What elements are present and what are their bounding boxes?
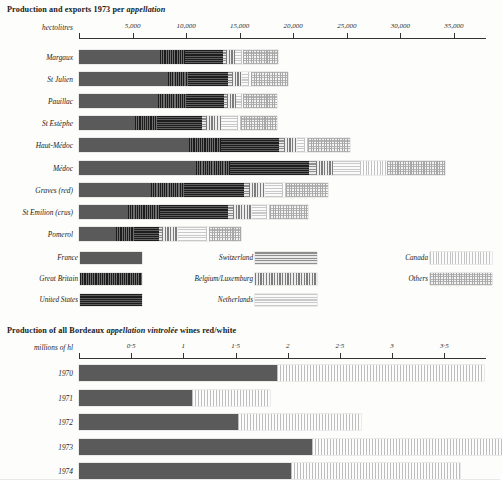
bar-segment-others [243,94,277,108]
legend-label: Others [0,275,434,283]
bar-segment-great-britain [160,50,185,64]
bar-segment-belgium-luxemburg [162,227,178,241]
legend-label: Canada [0,254,434,262]
bar-segment-france [79,50,160,64]
top-chart-bar [79,94,277,108]
bar-segment-great-britain [196,161,230,175]
bar-segment-great-britain [135,116,157,130]
top-chart-row-label: St Julien [0,75,79,84]
bar-segment-united-states [221,138,279,152]
bar-segment-netherlands [265,183,282,197]
bar-segment-france [79,72,168,86]
bar-segment-belgium-luxemburg [226,50,236,64]
bottom-chart-bar [79,365,484,381]
legend: FranceGreat BritainUnited StatesSwitzerl… [0,250,500,312]
top-chart-row-label: Pomerol [0,230,79,239]
bar-segment-white [238,414,361,430]
bottom-chart-row-label: 1973 [0,443,79,452]
legend-swatch-canada [430,252,492,264]
bar-segment-others [308,138,350,152]
bar-segment-belgium-luxemburg [206,116,221,130]
bar-segment-red [79,414,238,430]
bottom-chart-row-label: 1970 [0,369,79,378]
bar-segment-others [270,205,307,219]
bar-segment-netherlands [297,138,304,152]
bar-segment-belgium-luxemburg [227,94,237,108]
bar-segment-netherlands [333,161,360,175]
bar-segment-belgium-luxemburg [284,138,297,152]
bar-segment-white [192,390,270,406]
top-chart-row-label: St Emilion (crus) [0,208,79,217]
top-chart-row-label: Graves (red) [0,186,79,195]
bar-segment-red [79,390,192,406]
bottom-chart-row-label: 1971 [0,394,79,403]
bar-segment-netherlands [178,227,206,241]
bar-segment-united-states [230,161,309,175]
bar-segment-united-states [134,227,160,241]
bar-segment-red [79,439,312,455]
bar-segment-france [79,116,135,130]
bar-segment-others [286,183,328,197]
bar-segment-france [79,138,189,152]
bar-segment-belgium-luxemburg [233,205,252,219]
bar-segment-white [312,439,502,455]
bottom-chart-bar [79,390,270,406]
bottom-chart-plot: 19701971197219731974 [0,320,500,480]
bar-segment-france [79,183,151,197]
top-chart-bar [79,50,278,64]
bar-segment-others [243,50,278,64]
bar-segment-united-states [160,205,227,219]
top-chart-row-label: St Estèphe [0,119,79,128]
bar-segment-belgium-luxemburg [249,183,265,197]
top-chart-row-label: Médoc [0,164,79,173]
bar-segment-united-states [184,183,244,197]
bar-segment-others [241,116,277,130]
bar-segment-france [79,161,196,175]
bottom-chart-row-label: 1972 [0,418,79,427]
legend-swatch-netherlands [255,294,317,306]
bar-segment-united-states [188,72,228,86]
top-chart-bar [79,205,308,219]
top-chart-bar [79,161,445,175]
bar-segment-red [79,463,291,479]
top-chart-row-label: Pauillac [0,97,79,106]
top-chart-bar [79,116,277,130]
top-chart-bar [79,138,350,152]
bottom-chart-bar [79,414,361,430]
bar-segment-canada [360,161,388,175]
bar-segment-others [209,227,241,241]
bar-segment-belgium-luxemburg [232,72,243,86]
bar-segment-belgium-luxemburg [316,161,333,175]
bar-segment-france [79,94,158,108]
legend-label: Netherlands [0,296,259,304]
legend-swatch-others [430,273,492,285]
top-chart-row-label: Margaux [0,53,79,62]
bottom-chart-row-label: 1974 [0,467,79,476]
bar-segment-united-states [185,50,222,64]
bar-segment-others [387,161,445,175]
bar-segment-great-britain [189,138,221,152]
bar-segment-great-britain [158,94,186,108]
top-chart-bar [79,72,288,86]
bar-segment-others [251,72,288,86]
top-chart-row-label: Haut-Médoc [0,141,79,150]
bar-segment-red [79,365,277,381]
bar-segment-great-britain [128,205,160,219]
top-chart-bar [79,183,328,197]
bar-segment-united-states [157,116,202,130]
bar-segment-france [79,205,128,219]
bar-segment-great-britain [116,227,133,241]
bar-segment-netherlands [221,116,237,130]
bar-segment-netherlands [252,205,266,219]
top-chart-bar [79,227,241,241]
bar-segment-white [291,463,460,479]
bar-segment-france [79,227,116,241]
bar-segment-great-britain [151,183,184,197]
top-chart-plot: MargauxSt JulienPauillacSt EstèpheHaut-M… [0,0,500,250]
bar-segment-white [277,365,484,381]
bottom-chart-bar [79,439,502,455]
bottom-chart-bar [79,463,460,479]
bar-segment-united-states [186,94,223,108]
bar-segment-great-britain [168,72,188,86]
